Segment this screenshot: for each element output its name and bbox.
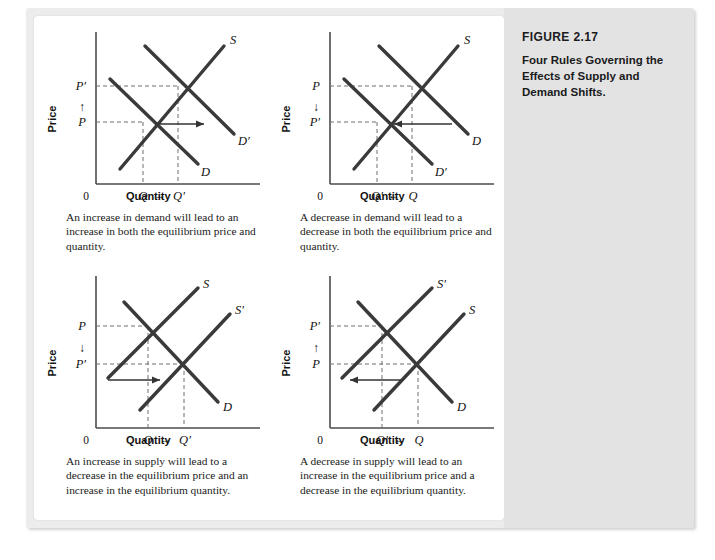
graph-area-2: Price P P′ ↓ 0 Q′ ← Q S D D′	[272, 24, 504, 206]
y-axis-title: Price	[280, 350, 292, 377]
curve-label-D-prime: D′	[434, 165, 447, 179]
price-label-top: P	[77, 319, 86, 333]
origin-label: 0	[317, 190, 323, 202]
x-axis-title-4: Quantity	[360, 434, 405, 446]
figure-title: Four Rules Governing the Effects of Supp…	[522, 52, 678, 100]
y-axis-title: Price	[46, 106, 58, 133]
curve-label-S-prime: S′	[437, 277, 446, 291]
graph-area-1: Price P′ P ↑ 0 Q → Q′ S D	[38, 24, 270, 206]
price-change-arrow: ↓	[313, 100, 319, 114]
supply-demand-chart-1: Price P′ P ↑ 0 Q → Q′ S D	[38, 24, 270, 206]
quantity-label-right: Q′	[173, 189, 185, 203]
demand-curve-D-prime	[145, 46, 234, 134]
quantity-label-right: Q	[414, 433, 423, 447]
panel-caption-2: A decrease in demand will lead to a decr…	[300, 210, 500, 253]
origin-label: 0	[83, 434, 89, 446]
price-label-top: P	[311, 79, 320, 93]
panel-caption-1: An increase in demand will lead to an in…	[66, 210, 266, 253]
price-label-bottom: P′	[309, 115, 321, 129]
curve-label-S: S	[230, 33, 237, 47]
origin-label: 0	[83, 190, 89, 202]
origin-label: 0	[317, 434, 323, 446]
supply-demand-chart-3: Price P P′ ↓ 0 Q → Q′ S S′ D	[38, 268, 270, 450]
x-axis-title-1: Quantity	[126, 190, 171, 202]
demand-shift-arrow	[155, 121, 204, 128]
price-label-bottom: P′	[75, 357, 87, 371]
panel-caption-4: A decrease in supply will lead to an inc…	[300, 454, 500, 497]
price-label-top: P′	[75, 79, 87, 93]
curve-label-D: D	[471, 134, 481, 148]
price-label-bottom: P	[311, 357, 320, 371]
figure-card: Price P′ P ↑ 0 Q → Q′ S D	[26, 8, 694, 528]
y-axis-title: Price	[46, 350, 58, 377]
curve-label-S-prime: S′	[235, 303, 244, 317]
supply-curve-S-prime	[140, 314, 230, 410]
supply-shift-arrow	[108, 377, 160, 384]
panel-decrease-in-demand: Price P P′ ↓ 0 Q′ ← Q S D D′ A decrease …	[272, 24, 504, 272]
curve-label-D: D	[222, 400, 232, 414]
price-label-bottom: P	[77, 115, 86, 129]
panel-decrease-in-supply: Price P′ P ↑ 0 Q′ ← Q S′ S D A decrease …	[272, 268, 504, 516]
price-label-top: P′	[309, 319, 321, 333]
demand-curve-D	[379, 46, 468, 134]
x-axis-title-3: Quantity	[126, 434, 171, 446]
quantity-label-right: Q	[408, 189, 417, 203]
figure-number: FIGURE 2.17	[522, 30, 598, 44]
curve-label-D: D	[200, 165, 210, 179]
price-change-arrow: ↓	[79, 341, 85, 355]
figure-page: Price P′ P ↑ 0 Q → Q′ S D	[0, 0, 715, 560]
quantity-label-right: Q′	[179, 433, 191, 447]
panel-increase-in-supply: Price P P′ ↓ 0 Q → Q′ S S′ D An increase…	[38, 268, 270, 516]
y-axis-title: Price	[280, 106, 292, 133]
curve-label-D: D	[456, 400, 466, 414]
curve-label-S: S	[464, 33, 471, 47]
graphs-panel: Price P′ P ↑ 0 Q → Q′ S D	[34, 16, 504, 520]
supply-demand-chart-4: Price P′ P ↑ 0 Q′ ← Q S′ S D	[272, 268, 504, 450]
supply-demand-chart-2: Price P P′ ↓ 0 Q′ ← Q S D D′	[272, 24, 504, 206]
curve-label-S: S	[469, 303, 476, 317]
panel-increase-in-demand: Price P′ P ↑ 0 Q → Q′ S D	[38, 24, 270, 272]
supply-curve-S	[374, 314, 464, 410]
supply-shift-arrow	[350, 377, 402, 384]
curve-label-S: S	[203, 277, 210, 291]
price-change-arrow: ↑	[313, 341, 319, 355]
price-change-arrow: ↑	[79, 100, 85, 114]
graph-area-4: Price P′ P ↑ 0 Q′ ← Q S′ S D	[272, 268, 504, 450]
figure-caption-sidebar: FIGURE 2.17 Four Rules Governing the Eff…	[504, 8, 694, 528]
x-axis-title-2: Quantity	[360, 190, 405, 202]
curve-label-D-prime: D′	[237, 134, 250, 148]
graph-area-3: Price P P′ ↓ 0 Q → Q′ S S′ D	[38, 268, 270, 450]
panel-caption-3: An increase in supply will lead to a dec…	[66, 454, 266, 497]
demand-shift-arrow	[394, 121, 452, 128]
